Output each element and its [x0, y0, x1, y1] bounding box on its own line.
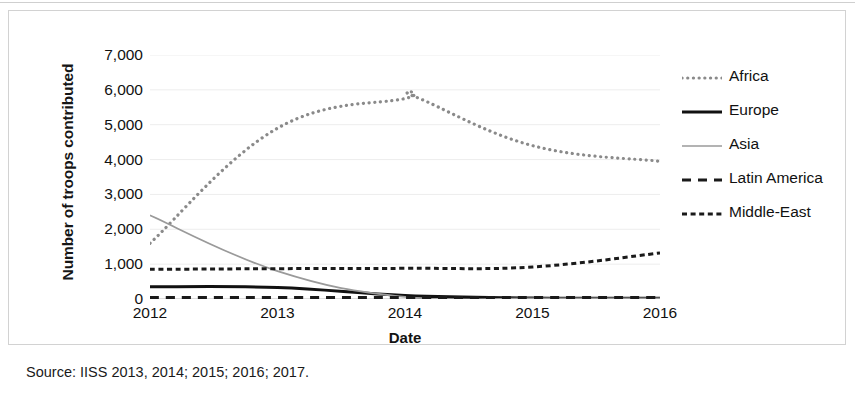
legend-swatch-latin-america [682, 172, 722, 184]
legend-swatch-middle-east [682, 206, 722, 218]
legend-swatch-asia [682, 138, 722, 150]
source-caption: Source: IISS 2013, 2014; 2015; 2016; 201… [26, 364, 309, 380]
chart-frame: Number of troops contributed 01,0002,000… [8, 10, 846, 345]
x-tick-label: 2016 [620, 304, 700, 322]
legend-label: Europe [729, 101, 779, 119]
y-tick-label: 5,000 [73, 117, 143, 133]
legend-item[interactable]: Middle-East [682, 195, 854, 229]
x-tick-label: 2013 [238, 304, 318, 322]
series-line-africa [150, 92, 660, 244]
y-tick-label: 6,000 [73, 82, 143, 98]
plot-area [150, 55, 660, 299]
legend-item[interactable]: Europe [682, 93, 854, 127]
chart-canvas [150, 55, 660, 299]
x-axis-title: Date [150, 329, 660, 346]
legend-label: Africa [729, 67, 769, 85]
data-series-group [150, 92, 660, 299]
y-tick-label: 1,000 [73, 256, 143, 272]
figure-root: Number of troops contributed 01,0002,000… [0, 0, 855, 394]
y-tick-label: 2,000 [73, 221, 143, 237]
legend-swatch-africa [682, 70, 722, 82]
legend-item[interactable]: Africa [682, 59, 854, 93]
legend-label: Asia [729, 135, 759, 153]
x-axis-tick-labels: 20122013201420152016 [150, 304, 660, 326]
legend-swatch-europe [682, 104, 722, 116]
y-axis-tick-labels: 01,0002,0003,0004,0005,0006,0007,000 [71, 55, 143, 299]
legend-label: Latin America [729, 169, 823, 187]
y-tick-label: 7,000 [73, 47, 143, 63]
legend-item[interactable]: Asia [682, 127, 854, 161]
series-line-middle-east [150, 253, 660, 269]
legend-label: Middle-East [729, 203, 811, 221]
x-tick-label: 2014 [365, 304, 445, 322]
y-tick-label: 3,000 [73, 186, 143, 202]
page-edge-line [0, 2, 855, 3]
legend-item[interactable]: Latin America [682, 161, 854, 195]
x-tick-label: 2015 [493, 304, 573, 322]
y-tick-label: 4,000 [73, 152, 143, 168]
chart-legend: AfricaEuropeAsiaLatin AmericaMiddle-East [682, 59, 854, 229]
x-tick-label: 2012 [110, 304, 190, 322]
